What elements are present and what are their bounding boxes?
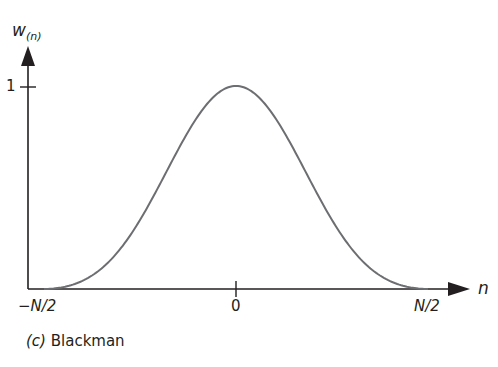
y-axis-arrow-icon: [21, 46, 35, 66]
x-axis-label: n: [478, 280, 489, 297]
x-tick-label-zero: 0: [231, 299, 241, 314]
y-axis-label-sub: (n): [26, 30, 42, 43]
caption-name: Blackman: [51, 332, 125, 350]
y-axis-label: w(n): [12, 22, 41, 39]
blackman-curve: [44, 86, 428, 289]
x-tick-label-pos: N/2: [414, 299, 440, 314]
x-axis-arrow-icon: [448, 282, 470, 296]
y-axis-label-main: w: [12, 20, 26, 40]
figure-caption: (c) Blackman: [26, 334, 125, 349]
caption-prefix: (c): [26, 332, 46, 350]
x-tick-label-neg: −N/2: [18, 299, 56, 314]
y-tick-label-one: 1: [6, 79, 16, 94]
